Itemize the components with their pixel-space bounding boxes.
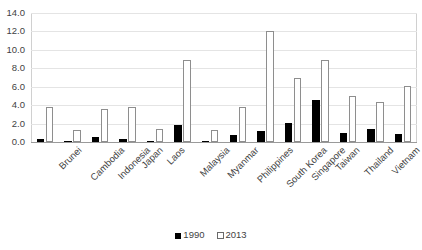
legend-label-2013: 2013 (226, 229, 247, 240)
y-tick-label-text: 4.0 (0, 100, 25, 110)
bar-group (252, 13, 280, 142)
bar-1990-south-korea (257, 131, 265, 142)
x-tick-label: Brunei (57, 145, 83, 171)
bar-2013-cambodia (73, 130, 81, 142)
bar-2013-thailand (349, 96, 357, 142)
bar-1990-laos (147, 141, 155, 142)
bar-1990-malaysia (174, 125, 182, 142)
bar-1990-philippines (230, 135, 238, 142)
bar-group (279, 13, 307, 142)
bar-1990-thailand (340, 133, 348, 142)
bar-group (362, 13, 390, 142)
bar-2013-laos (156, 129, 164, 142)
bar-1990-cambodia (64, 141, 72, 142)
x-tick-label: Vietnam (390, 145, 422, 177)
chart-title-cropped (0, 0, 422, 9)
bar-1990-singapore (285, 123, 293, 142)
bar-1990-indonesia (92, 137, 100, 142)
bar-group (196, 13, 224, 142)
bar-2013-myanmar (211, 130, 219, 142)
y-tick-label-text: 8.0 (0, 63, 25, 73)
bar-2013-indonesia (101, 109, 109, 142)
bar-group (31, 13, 59, 142)
x-tick-label: Laos (165, 145, 187, 167)
bar-group (141, 13, 169, 142)
bar-1990-brunei (37, 139, 45, 142)
bar-group (334, 13, 362, 142)
bar-1990-vietnam (367, 129, 375, 142)
legend-swatch-1990 (175, 233, 181, 239)
bar-group (169, 13, 197, 142)
bar-group (86, 13, 114, 142)
legend-label-1990: 1990 (183, 229, 204, 240)
chart-legend: 19902013 (0, 229, 422, 240)
bar-1990-myanmar (202, 141, 210, 142)
legend-item-2013: 2013 (217, 229, 247, 240)
bar-group (389, 13, 417, 142)
x-axis-category-labels: BruneiCambodiaIndonesiaJapanLaosMalaysia… (31, 143, 417, 223)
bar-2013-brunei (46, 107, 54, 142)
bar-2013-taiwan (321, 60, 329, 142)
bar-chart: 14.012.010.08.06.04.02.00.0 BruneiCambod… (0, 0, 422, 250)
y-tick-label-text: 12.0 (0, 26, 25, 36)
y-tick-label-text: 2.0 (0, 119, 25, 129)
y-tick-label-text: 10.0 (0, 45, 25, 55)
bar-1990-japan (119, 139, 127, 142)
bar-groups (31, 13, 417, 142)
y-tick-label-text: 0.0 (0, 137, 25, 147)
bar-group (114, 13, 142, 142)
y-tick-label-text: 14.0 (0, 8, 25, 18)
bar-group (224, 13, 252, 142)
bar-1990-taiwan (312, 100, 320, 142)
bar-2013-singapore (294, 78, 302, 143)
bar-group (307, 13, 335, 142)
legend-swatch-2013 (217, 232, 224, 239)
bar-2013-south-korea (266, 31, 274, 142)
bar-2013-asean-jkt (404, 86, 412, 142)
x-tick-label: Thailand (363, 145, 396, 178)
y-tick-label-text: 6.0 (0, 82, 25, 92)
bar-2013-malaysia (183, 60, 191, 142)
bar-2013-japan (128, 107, 136, 142)
bar-group (59, 13, 87, 142)
legend-item-1990: 1990 (175, 229, 204, 240)
bar-2013-philippines (239, 107, 247, 142)
bar-1990-asean-jkt (395, 134, 403, 142)
bar-2013-vietnam (376, 102, 384, 142)
